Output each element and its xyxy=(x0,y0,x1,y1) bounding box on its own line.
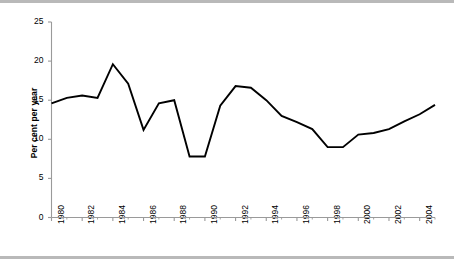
chart-figure: Per cent per year 0510152025 19801982198… xyxy=(0,0,454,266)
plot-area xyxy=(0,0,454,266)
axes-lines xyxy=(52,22,436,218)
axis-ticks xyxy=(48,22,435,221)
data-series-line xyxy=(52,64,436,156)
